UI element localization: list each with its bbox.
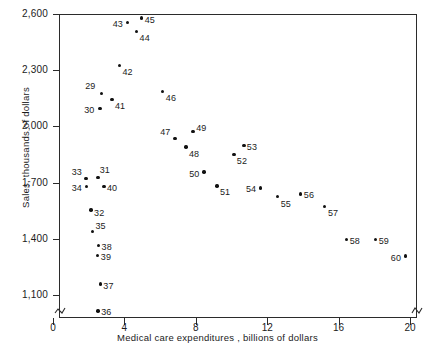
y-axis-title: Sales, thousands of dollars [20, 63, 31, 233]
data-point-label: 51 [220, 187, 230, 197]
data-point [110, 98, 113, 101]
data-point [89, 208, 92, 211]
data-point [202, 170, 205, 173]
data-point-label: 53 [247, 142, 257, 152]
data-point-label: 32 [94, 208, 104, 218]
data-point [96, 309, 99, 312]
data-point-label: 60 [391, 253, 401, 263]
data-point [215, 184, 218, 187]
data-point-label: 29 [85, 81, 95, 91]
x-axis-title: Medical care expenditures , billions of … [0, 332, 435, 343]
y-axis-tick-label: 2,600 [0, 8, 48, 19]
data-point-label: 31 [100, 165, 110, 175]
data-point [242, 144, 245, 147]
data-point [404, 254, 407, 257]
data-point-label: 59 [379, 236, 389, 246]
y-axis-tick-label: 1,400 [0, 233, 48, 244]
data-point-label: 30 [84, 105, 94, 115]
data-point-label: 52 [237, 156, 247, 166]
data-point-label: 55 [281, 199, 291, 209]
data-point [135, 30, 138, 33]
data-point [173, 137, 176, 140]
data-point-label: 49 [196, 123, 206, 133]
data-point-label: 36 [101, 307, 111, 317]
data-point [99, 282, 102, 285]
data-point-label: 48 [189, 149, 199, 159]
data-point [102, 185, 105, 188]
data-point [98, 107, 101, 110]
data-point-label: 39 [101, 252, 111, 262]
y-axis-tick [53, 14, 60, 15]
data-point-label: 40 [107, 183, 117, 193]
data-point [140, 16, 143, 19]
data-point-label: 54 [246, 184, 256, 194]
data-point-label: 33 [72, 167, 82, 177]
data-point-label: 37 [103, 281, 113, 291]
y-axis-break-mark [52, 296, 68, 316]
y-axis-tick-label: 1,100 [0, 289, 48, 300]
data-point [191, 130, 194, 133]
scatter-chart-figure: 1,1001,4001,7002,0002,3002,600 048121620… [0, 0, 435, 348]
y-axis-tick [53, 70, 60, 71]
x-axis-break-mark [409, 296, 427, 316]
data-point-label: 50 [189, 169, 199, 179]
data-point-label: 38 [102, 242, 112, 252]
data-point-label: 34 [72, 183, 82, 193]
data-point [184, 145, 187, 148]
data-point-label: 58 [350, 236, 360, 246]
data-point-label: 35 [95, 221, 105, 231]
data-point-label: 42 [122, 67, 132, 77]
data-point-label: 44 [140, 33, 150, 43]
data-point-label: 41 [115, 101, 125, 111]
y-axis-tick [53, 126, 60, 127]
data-point-label: 57 [328, 208, 338, 218]
data-point [232, 153, 235, 156]
data-point-label: 47 [160, 127, 170, 137]
data-point-label: 56 [304, 190, 314, 200]
data-point-label: 46 [166, 93, 176, 103]
data-point-label: 45 [145, 15, 155, 25]
y-axis-tick [53, 183, 60, 184]
data-point-label: 43 [113, 19, 123, 29]
y-axis-tick [53, 239, 60, 240]
